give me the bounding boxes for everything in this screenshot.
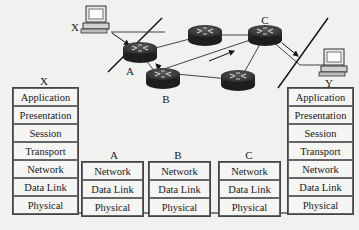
router-bottom-middle-icon (221, 70, 255, 91)
layer-data-link: Data Link (13, 178, 78, 196)
layer-application: Application (288, 88, 353, 106)
layer-physical: Physical (149, 198, 210, 216)
stack-x-title: X (38, 76, 50, 87)
layer-transport: Transport (288, 142, 353, 160)
router-a-icon (123, 42, 157, 63)
stack-c: Network Data Link Physical (218, 161, 281, 217)
layer-data-link: Data Link (288, 178, 353, 196)
layer-physical: Physical (288, 196, 353, 214)
router-a-label: A (124, 66, 136, 77)
layer-physical: Physical (219, 198, 280, 216)
layer-transport: Transport (13, 142, 78, 160)
layer-session: Session (288, 124, 353, 142)
stack-a-title: A (108, 150, 120, 161)
layer-presentation: Presentation (288, 106, 353, 124)
layer-physical: Physical (13, 196, 78, 214)
layer-application: Application (13, 88, 78, 106)
stack-y: Application Presentation Session Transpo… (287, 87, 354, 215)
computer-x-icon (81, 6, 109, 33)
layer-session: Session (13, 124, 78, 142)
host-x-label: X (69, 22, 81, 33)
computer-y-icon (319, 49, 347, 76)
layer-network: Network (219, 162, 280, 180)
stack-x: Application Presentation Session Transpo… (12, 87, 79, 215)
layer-data-link: Data Link (219, 180, 280, 198)
router-b-label: B (160, 94, 172, 105)
layer-presentation: Presentation (13, 106, 78, 124)
layer-network: Network (82, 162, 143, 180)
layer-data-link: Data Link (149, 180, 210, 198)
layer-physical: Physical (82, 198, 143, 216)
stack-b: Network Data Link Physical (148, 161, 211, 217)
router-c-label: C (259, 15, 271, 26)
stack-b-title: B (172, 150, 184, 161)
layer-data-link: Data Link (82, 180, 143, 198)
layer-network: Network (149, 162, 210, 180)
stack-c-title: C (243, 150, 255, 161)
layer-network: Network (13, 160, 78, 178)
router-b-icon (146, 68, 180, 89)
router-c-icon (248, 25, 282, 46)
router-top-middle-icon (188, 25, 222, 46)
network-diagram: X Y A B C X Application Presentation Ses… (0, 0, 359, 230)
stack-a: Network Data Link Physical (81, 161, 144, 217)
layer-network: Network (288, 160, 353, 178)
